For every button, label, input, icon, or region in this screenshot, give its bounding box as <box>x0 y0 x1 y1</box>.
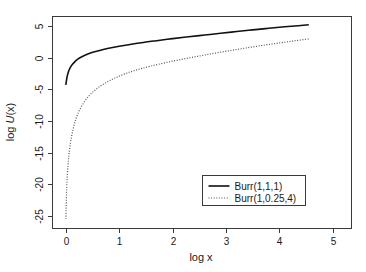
x-tick-label-2: 2 <box>171 236 177 247</box>
line-chart: 012345 50-5-10-15-20-25 log x log U(x) B… <box>0 0 366 272</box>
y-tick-label-5: 5 <box>34 23 45 29</box>
y-axis-title-variable: U <box>4 116 16 124</box>
y-axis-title-suffix: (x) <box>4 103 16 116</box>
legend-label-1: Burr(1,1,1) <box>235 181 283 192</box>
y-axis-title: log U(x) <box>4 103 16 142</box>
x-axis-title: log x <box>189 251 213 263</box>
legend-label-2: Burr(1,0.25,4) <box>235 193 297 204</box>
chart-background <box>0 0 366 272</box>
y-tick-label--15: -15 <box>34 146 45 161</box>
y-axis-title-prefix: log <box>4 124 16 142</box>
x-tick-label-5: 5 <box>331 236 337 247</box>
chart-legend: Burr(1,1,1)Burr(1,0.25,4) <box>203 176 306 206</box>
x-tick-label-3: 3 <box>224 236 230 247</box>
y-tick-label--10: -10 <box>34 114 45 129</box>
y-tick-label--5: -5 <box>34 85 45 94</box>
x-tick-label-4: 4 <box>277 236 283 247</box>
svg-text:log U(x): log U(x) <box>4 103 16 142</box>
x-tick-label-1: 1 <box>117 236 123 247</box>
y-tick-label-0: 0 <box>34 55 45 61</box>
chart-container: 012345 50-5-10-15-20-25 log x log U(x) B… <box>0 0 366 272</box>
x-tick-label-0: 0 <box>64 236 70 247</box>
y-tick-label--25: -25 <box>34 209 45 224</box>
y-tick-label--20: -20 <box>34 177 45 192</box>
